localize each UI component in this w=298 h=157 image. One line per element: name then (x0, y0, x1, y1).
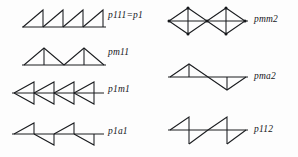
vertex-node (225, 33, 228, 36)
label-pma2: pma2 (254, 72, 276, 82)
motif-pma2 (168, 62, 248, 92)
panel-pm11 (22, 44, 106, 68)
label-p1m1: p1m1 (108, 85, 130, 95)
label-p111: p111=p1 (108, 11, 143, 21)
panel-p111 (22, 6, 106, 30)
motif-pmm2 (168, 6, 248, 36)
panel-p112 (168, 114, 248, 146)
label-pmm2: pmm2 (254, 15, 278, 25)
vertex-node (244, 20, 247, 23)
vertex-node (168, 20, 171, 23)
panel-pma2 (168, 62, 248, 92)
label-p112: p112 (254, 125, 273, 135)
motif-pm11 (22, 44, 106, 68)
label-pm11: pm11 (108, 48, 129, 58)
vertex-node (206, 20, 209, 23)
panel-p1m1 (12, 80, 104, 106)
label-p1a1: p1a1 (108, 127, 128, 137)
panel-pmm2 (168, 6, 248, 36)
panel-p1a1 (12, 120, 104, 148)
vertex-node (187, 33, 190, 36)
motif-p1m1 (12, 80, 104, 106)
frieze-groups-figure: p111=p1 pm11 p1m1 (0, 0, 298, 157)
vertex-node (225, 7, 228, 10)
motif-p1a1 (12, 120, 104, 148)
motif-p111 (22, 6, 106, 30)
vertex-node (187, 7, 190, 10)
motif-p112 (168, 114, 248, 146)
